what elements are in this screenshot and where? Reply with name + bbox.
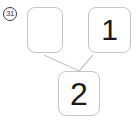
connector-right-line: [79, 55, 93, 71]
question-number-badge: 31: [3, 7, 17, 21]
box-top-right-1: 1: [88, 7, 131, 53]
box-bottom-2: 2: [58, 71, 100, 116]
box-top-left-empty: [27, 7, 63, 53]
diagram-canvas: 31 1 2: [0, 0, 136, 124]
connector-left-line: [44, 55, 79, 71]
